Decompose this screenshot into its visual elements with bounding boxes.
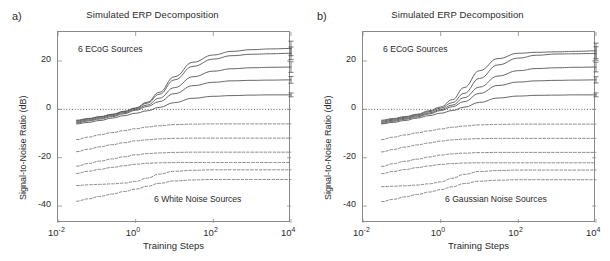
noise-curve: [77, 170, 291, 186]
y-tick-label: -40: [25, 199, 51, 209]
x-tick-label: 104: [586, 226, 600, 238]
x-tick-label: 10-2: [353, 226, 370, 238]
y-tick-label: -40: [330, 199, 356, 209]
x-axis-label-b: Training Steps: [362, 240, 595, 251]
y-tick-label: 20: [330, 54, 356, 64]
noise-curve: [382, 124, 596, 139]
annotation-noise-a: 6 White Noise Sources: [154, 194, 241, 204]
noise-curve: [382, 163, 596, 174]
x-tick-label: 104: [281, 226, 295, 238]
noise-curve: [77, 138, 291, 152]
x-axis-label-a: Training Steps: [57, 240, 290, 251]
erp-decomposition-figure: a) Simulated ERP Decomposition Signal-to…: [0, 0, 610, 261]
noise-curve: [382, 170, 596, 187]
x-tick-label: 100: [126, 226, 140, 238]
x-tick-label: 100: [431, 226, 445, 238]
signal-curve: [382, 51, 596, 120]
y-tick-label: 0: [25, 102, 51, 112]
signal-curve: [382, 54, 596, 122]
x-tick-label: 10-2: [48, 226, 65, 238]
y-tick-label: 0: [330, 102, 356, 112]
noise-curve: [77, 152, 291, 166]
annotation-signal-a: 6 ECoG Sources: [78, 44, 142, 54]
signal-curve: [77, 67, 291, 122]
signal-curve: [77, 53, 291, 121]
annotation-signal-b: 6 ECoG Sources: [383, 44, 447, 54]
panel-title-b: Simulated ERP Decomposition: [305, 9, 610, 20]
noise-curve: [382, 138, 596, 152]
y-tick-label: -20: [330, 151, 356, 161]
y-tick-label: 20: [25, 54, 51, 64]
x-tick-label: 102: [508, 226, 522, 238]
y-tick-label: -20: [25, 151, 51, 161]
panel-a: a) Simulated ERP Decomposition Signal-to…: [0, 0, 305, 261]
panel-b: b) Simulated ERP Decomposition Signal-to…: [305, 0, 610, 261]
annotation-noise-b: 6 Gaussian Noise Sources: [445, 194, 547, 204]
noise-curve: [77, 163, 291, 174]
x-tick-label: 102: [203, 226, 217, 238]
noise-curve: [382, 152, 596, 166]
noise-curve: [77, 124, 291, 140]
panel-title-a: Simulated ERP Decomposition: [0, 9, 305, 20]
